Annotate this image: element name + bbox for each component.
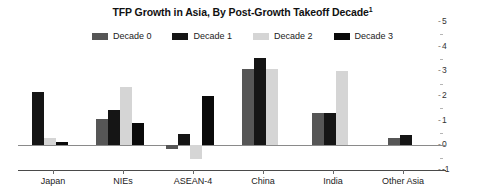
bar[interactable] bbox=[32, 92, 44, 145]
bar-group bbox=[228, 22, 298, 170]
x-axis-tick-mark bbox=[123, 170, 124, 174]
plot-area bbox=[18, 22, 438, 170]
x-axis-tick-mark bbox=[53, 170, 54, 174]
bar[interactable] bbox=[108, 110, 120, 146]
y-axis-minor-tick bbox=[440, 84, 443, 85]
bar-group bbox=[368, 22, 438, 170]
x-axis-tick-mark bbox=[333, 170, 334, 174]
y-axis-tick-label: -5 bbox=[438, 16, 447, 26]
chart-title-footnote-marker: 1 bbox=[369, 6, 373, 13]
chart-title: TFP Growth in Asia, By Post-Growth Takeo… bbox=[0, 6, 485, 18]
x-axis-tick-mark bbox=[193, 170, 194, 174]
y-axis-tick-label: -4 bbox=[438, 41, 447, 51]
bar[interactable] bbox=[166, 145, 178, 149]
x-axis-tick-label: NIEs bbox=[113, 176, 133, 186]
x-axis-tick-label: Other Asia bbox=[382, 176, 424, 186]
chart-title-text: TFP Growth in Asia, By Post-Growth Takeo… bbox=[112, 6, 368, 18]
bar[interactable] bbox=[120, 87, 132, 145]
y-axis-tick-label: -1 bbox=[438, 115, 447, 125]
x-axis-line bbox=[18, 170, 446, 171]
chart-container: TFP Growth in Asia, By Post-Growth Takeo… bbox=[0, 0, 485, 192]
bar-group bbox=[298, 22, 368, 170]
bar-group bbox=[88, 22, 158, 170]
y-axis-minor-tick bbox=[440, 133, 443, 134]
y-axis-tick-label: -2 bbox=[438, 90, 447, 100]
y-axis-tick-label: -3 bbox=[438, 65, 447, 75]
bar[interactable] bbox=[254, 58, 266, 146]
y-axis: -5-4-3-2-1-0--1 bbox=[438, 0, 485, 192]
x-axis-tick-mark bbox=[263, 170, 264, 174]
bar[interactable] bbox=[190, 145, 202, 159]
bar[interactable] bbox=[202, 96, 214, 145]
bar[interactable] bbox=[266, 69, 278, 145]
x-axis-tick-label: India bbox=[323, 176, 343, 186]
y-axis-minor-tick bbox=[440, 158, 443, 159]
bar[interactable] bbox=[96, 119, 108, 145]
bar[interactable] bbox=[56, 142, 68, 146]
bar[interactable] bbox=[400, 135, 412, 145]
bar[interactable] bbox=[242, 69, 254, 145]
bar[interactable] bbox=[336, 71, 348, 145]
y-axis-minor-tick bbox=[440, 59, 443, 60]
x-axis-tick-label: ASEAN-4 bbox=[174, 176, 213, 186]
bar[interactable] bbox=[388, 138, 400, 145]
y-axis-rule bbox=[436, 145, 446, 146]
y-axis-minor-tick bbox=[440, 108, 443, 109]
y-axis-minor-tick bbox=[440, 34, 443, 35]
y-axis-tick-label: -0 bbox=[438, 139, 447, 149]
bar[interactable] bbox=[178, 134, 190, 145]
x-axis-tick-mark bbox=[403, 170, 404, 174]
bar-group bbox=[18, 22, 88, 170]
bar[interactable] bbox=[44, 138, 56, 145]
bar[interactable] bbox=[312, 113, 324, 145]
bar[interactable] bbox=[324, 113, 336, 145]
bar-group bbox=[158, 22, 228, 170]
bar[interactable] bbox=[132, 123, 144, 145]
x-axis-tick-label: China bbox=[251, 176, 275, 186]
x-axis-tick-label: Japan bbox=[41, 176, 66, 186]
x-axis: JapanNIEsASEAN-4ChinaIndiaOther Asia bbox=[0, 170, 485, 192]
